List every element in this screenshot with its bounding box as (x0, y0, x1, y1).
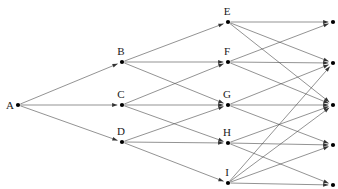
node-label-f: F (224, 45, 230, 57)
arrowhead-g-to-t4-icon (323, 140, 329, 144)
node-label-b: B (117, 45, 124, 57)
arrowhead-h-to-t4-icon (323, 143, 328, 147)
edge-c-to-f (124, 64, 223, 104)
edge-i-to-t4 (230, 147, 328, 183)
node-t4[interactable] (331, 143, 335, 147)
graph-diagram: ABCDEFGHI (0, 0, 338, 189)
arrowhead-h-to-t5-icon (323, 180, 329, 184)
node-f[interactable] (226, 60, 230, 64)
node-i[interactable] (226, 181, 230, 185)
arrowhead-c-to-f-icon (218, 64, 224, 68)
arrowhead-a-to-d-icon (112, 137, 118, 141)
node-t1[interactable] (331, 20, 335, 24)
node-d[interactable] (120, 140, 124, 144)
node-e[interactable] (226, 20, 230, 24)
node-a[interactable] (16, 103, 20, 107)
arrowhead-a-to-c-icon (112, 103, 117, 107)
node-t3[interactable] (331, 103, 335, 107)
node-label-a: A (6, 99, 14, 111)
arrowhead-f-to-t1-icon (323, 24, 329, 28)
arrowhead-b-to-e-icon (218, 24, 224, 28)
edge-f-to-t3 (230, 63, 328, 103)
node-g[interactable] (226, 103, 230, 107)
edge-b-to-g (124, 63, 223, 103)
node-t5[interactable] (331, 183, 335, 187)
arrowhead-i-to-t5-icon (323, 183, 328, 187)
arrowhead-c-to-g-icon (218, 103, 223, 107)
arrowhead-f-to-t2-icon (323, 61, 328, 65)
edge-a-to-b (20, 64, 117, 104)
arrowhead-e-to-t2-icon (323, 58, 329, 62)
edge-i-to-t5 (231, 183, 329, 185)
arrowhead-d-to-h-icon (218, 141, 223, 145)
edge-b-to-e (124, 24, 223, 61)
arrowhead-d-to-g-icon (218, 106, 224, 110)
arrowhead-c-to-h-icon (218, 138, 224, 142)
arrowhead-a-to-b-icon (112, 64, 118, 68)
node-label-g: G (223, 88, 231, 100)
arrowhead-d-to-i-icon (218, 178, 224, 182)
arrowhead-g-to-t3-icon (323, 103, 328, 107)
node-label-h: H (223, 126, 231, 138)
edge-d-to-h (125, 142, 224, 143)
node-c[interactable] (120, 103, 124, 107)
arrowhead-e-to-t1-icon (323, 20, 328, 24)
node-t2[interactable] (331, 61, 335, 65)
node-label-e: E (224, 5, 231, 17)
node-labels-layer: ABCDEFGHI (6, 5, 231, 178)
arrowhead-b-to-f-icon (218, 60, 223, 64)
graph-canvas: ABCDEFGHI (0, 0, 338, 189)
arrowhead-i-to-t4-icon (323, 147, 329, 151)
node-label-c: C (117, 88, 124, 100)
node-label-i: I (225, 166, 229, 178)
node-h[interactable] (226, 141, 230, 145)
node-b[interactable] (120, 60, 124, 64)
arrowhead-b-to-g-icon (218, 100, 224, 104)
node-label-d: D (117, 125, 125, 137)
edge-d-to-i (124, 143, 223, 181)
edge-a-to-d (20, 106, 117, 141)
edges-layer (20, 20, 330, 187)
